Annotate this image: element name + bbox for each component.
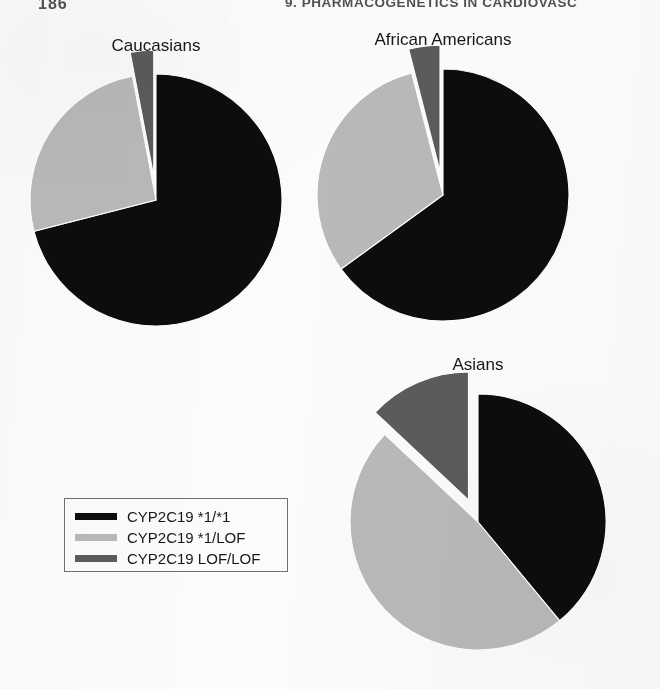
pie-graphic-caucasians [0,42,314,358]
pie-chart-caucasians [0,42,314,358]
legend-swatch-wt_wt [75,513,117,520]
chapter-running-head: 9. PHARMACOGENETICS IN CARDIOVASC [285,0,577,10]
legend-item-wt_lof: CYP2C19 *1/LOF [65,527,287,547]
legend-item-lof_lof: CYP2C19 LOF/LOF [65,548,287,568]
pie-chart-asians [318,362,638,682]
pie-graphic-african-americans [285,37,601,353]
chart-title-asians: Asians [328,355,628,375]
chart-title-caucasians: Caucasians [6,36,306,56]
pie-chart-african-americans [285,37,601,353]
chart-legend: CYP2C19 *1/*1CYP2C19 *1/LOFCYP2C19 LOF/L… [64,498,288,572]
legend-label-wt_lof: CYP2C19 *1/LOF [127,529,245,546]
pie-graphic-asians [318,362,638,682]
legend-label-lof_lof: CYP2C19 LOF/LOF [127,550,260,567]
legend-item-wt_wt: CYP2C19 *1/*1 [65,506,287,526]
scanned-book-page: 186 9. PHARMACOGENETICS IN CARDIOVASC Ca… [0,0,660,689]
legend-label-wt_wt: CYP2C19 *1/*1 [127,508,230,525]
chart-title-african-americans: African Americans [293,30,593,50]
page-folio-number: 186 [38,0,68,13]
legend-swatch-wt_lof [75,534,117,541]
legend-swatch-lof_lof [75,555,117,562]
